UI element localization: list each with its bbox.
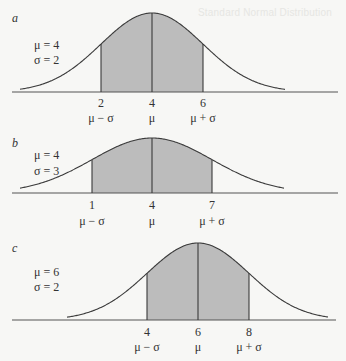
tick-symbol: μ − σ: [79, 214, 105, 228]
tick-symbol: μ: [149, 111, 155, 125]
sigma-label: σ = 2: [34, 280, 59, 294]
panel-letter: c: [12, 241, 18, 255]
tick-label: 1: [89, 198, 95, 212]
tick-symbol: μ: [149, 214, 155, 228]
panel-c: c μ = 6 σ = 2 4μ − σ6μ8μ + σ: [12, 241, 336, 354]
mu-label: μ = 6: [34, 265, 59, 279]
tick-symbol: μ + σ: [190, 111, 216, 125]
tick-symbol: μ + σ: [236, 340, 262, 354]
sigma-label: σ = 3: [34, 164, 59, 178]
tick-label: 6: [195, 325, 201, 339]
tick-symbol: μ − σ: [134, 340, 160, 354]
panel-letter: a: [12, 11, 18, 25]
tick-label: 4: [149, 96, 155, 110]
panel-b: b μ = 4 σ = 3 1μ − σ4μ7μ + σ: [12, 136, 338, 228]
tick-symbol: μ + σ: [199, 214, 225, 228]
panel-letter: b: [12, 136, 18, 150]
tick-label: 2: [98, 96, 104, 110]
tick-label: 6: [200, 96, 206, 110]
tick-symbol: μ: [195, 340, 201, 354]
tick-label: 4: [144, 325, 150, 339]
normal-distribution-figure: a μ = 4 σ = 2 2μ − σ4μ6μ + σ b μ = 4 σ =…: [0, 0, 346, 361]
tick-symbol: μ − σ: [88, 111, 114, 125]
sigma-label: σ = 2: [34, 53, 59, 67]
tick-label: 4: [149, 198, 155, 212]
tick-label: 7: [209, 198, 215, 212]
panel-a: a μ = 4 σ = 2 2μ − σ4μ6μ + σ: [12, 11, 338, 125]
tick-label: 8: [246, 325, 252, 339]
mu-label: μ = 4: [34, 38, 59, 52]
mu-label: μ = 4: [34, 148, 59, 162]
